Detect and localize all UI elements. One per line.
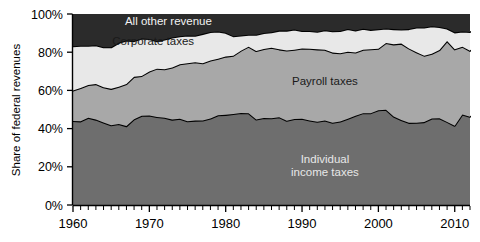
y-tick-label: 40%	[38, 122, 63, 136]
chart-figure: 100%80%60%40%20%0% 196019701980199020002…	[0, 0, 480, 242]
y-tick-label: 0%	[45, 199, 63, 213]
series-label-corporate-taxes: Corporate taxes	[112, 35, 194, 47]
stacked-area-chart: 100%80%60%40%20%0% 196019701980199020002…	[0, 0, 480, 242]
x-tick-label: 1980	[211, 216, 240, 231]
y-tick-label: 20%	[38, 160, 63, 174]
y-tick-label: 80%	[38, 46, 63, 60]
y-tick-label: 100%	[31, 8, 63, 22]
area-band-individual-income-taxes	[73, 110, 470, 205]
x-tick-label: 1970	[135, 216, 164, 231]
x-tick-label: 1960	[59, 216, 88, 231]
y-tick-label: 60%	[38, 84, 63, 98]
series-label-all-other-revenue: All other revenue	[125, 15, 212, 27]
series-label-individual-income-taxes-line1: Individual	[301, 153, 350, 165]
series-label-individual-income-taxes-line2: income taxes	[291, 166, 359, 178]
x-tick-label: 2000	[364, 216, 393, 231]
y-axis-title: Share of federal revenues	[10, 44, 22, 177]
x-tick-label: 2010	[440, 216, 469, 231]
x-tick-label: 1990	[288, 216, 317, 231]
series-label-payroll-taxes: Payroll taxes	[292, 75, 358, 87]
